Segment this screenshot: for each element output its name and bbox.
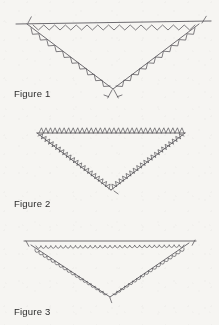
figure-3-top-arches bbox=[159, 245, 164, 248]
figure-3-top-arches bbox=[61, 246, 66, 249]
figure-3-top-arches bbox=[164, 245, 169, 248]
figure-3-top-arches bbox=[169, 245, 174, 248]
figure-3-drawing bbox=[0, 0, 219, 325]
figure-3-top-arches bbox=[174, 245, 179, 248]
figure-3-top-arches bbox=[115, 245, 120, 248]
figure-3-top-arches bbox=[46, 246, 51, 249]
figure-3-bottom-vertex-tick bbox=[110, 298, 112, 303]
figure-3-top-arches bbox=[75, 246, 80, 249]
figure-3-top-arches bbox=[51, 246, 56, 249]
document-page: Figure 1 Figure 2 Figure 3 bbox=[0, 0, 219, 325]
figure-3-top-arches bbox=[149, 245, 154, 248]
figure-3-top-arches bbox=[135, 245, 140, 248]
figure-3-top-arches bbox=[154, 245, 159, 248]
figure-3-top-arches bbox=[66, 246, 71, 249]
figure-3-top-arches bbox=[130, 245, 135, 248]
figure-3-top-arches bbox=[90, 246, 95, 249]
figure-3-top-arches bbox=[71, 246, 76, 249]
figure-3-label: Figure 3 bbox=[14, 306, 50, 317]
figure-3-top-arches bbox=[125, 245, 130, 248]
figure-3-top-arches bbox=[120, 245, 125, 248]
figure-3-top-arches bbox=[110, 245, 115, 248]
figure-3-top-arches bbox=[145, 245, 150, 248]
figure-3-top-arches bbox=[80, 246, 85, 249]
figure-3-top-arches bbox=[41, 246, 46, 249]
figure-3-right-edge bbox=[110, 243, 189, 297]
figure-3-top-arches bbox=[105, 246, 110, 249]
figure-3-top-arches bbox=[95, 246, 100, 249]
figure-3-top-arches bbox=[85, 246, 90, 249]
figure-3-top-arches bbox=[140, 245, 145, 248]
figure-3-top-arches bbox=[36, 246, 41, 249]
figure-3-left-vertex-tick bbox=[26, 241, 29, 246]
figure-3-top-arches bbox=[56, 246, 61, 249]
figure-3-top-arches bbox=[100, 246, 105, 249]
